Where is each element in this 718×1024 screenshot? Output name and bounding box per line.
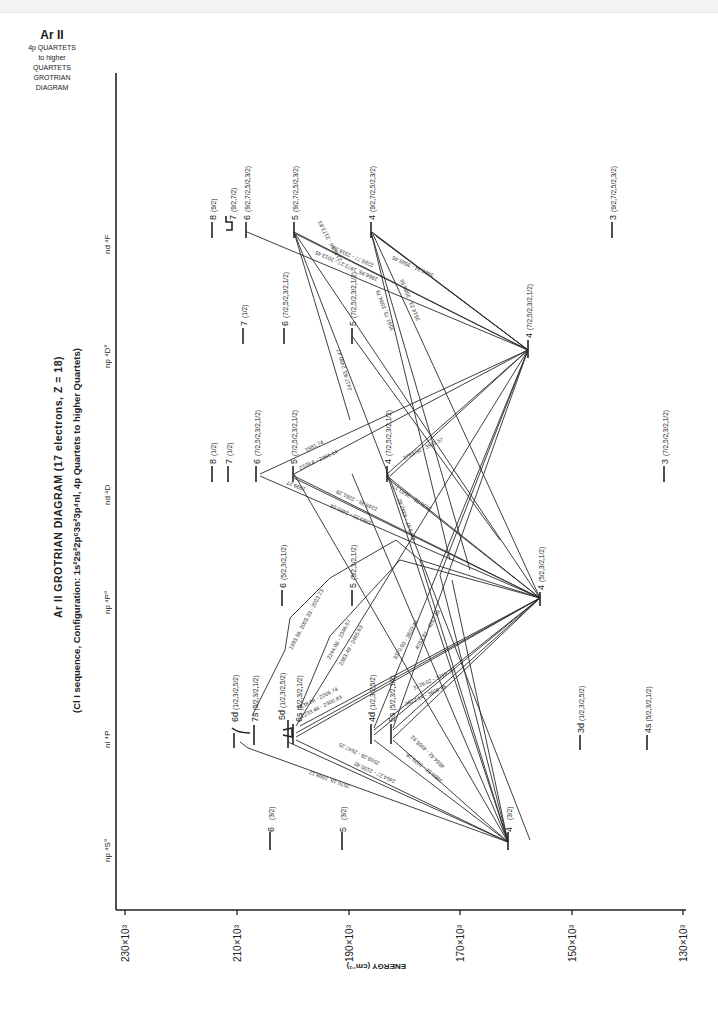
- svg-text:3562.73, 3594.79: 3562.73, 3594.79: [375, 289, 395, 331]
- diagram-title: Ar II GROTRIAN DIAGRAM (17 electrons, Z …: [52, 356, 64, 618]
- level-nl4P-5d: 5d(1/2,3/2,5/2): [277, 673, 287, 720]
- level-nd4D-4: 4(7/2,5/2,3/2,1/2): [383, 410, 393, 464]
- svg-text:2339.8 - 2381.14: 2339.8 - 2381.14: [298, 449, 338, 471]
- svg-text:1993.56, 2003.33 - 2022.73: 1993.56, 2003.33 - 2022.73: [288, 588, 325, 650]
- grotrian-diagram: Ar II GROTRIAN DIAGRAM (17 electrons, Z …: [0, 0, 718, 1024]
- level-np4D-7: 7(1/2): [239, 305, 249, 326]
- column-label-nd4F: nd ⁴F: [103, 234, 112, 254]
- level-nl4P-4d: 4d(1/2,3/2,5/2): [367, 675, 377, 722]
- level-np4S-6: 6: [266, 827, 276, 832]
- tick-label-130: 130×10³: [678, 924, 689, 962]
- level-nd4F-4: 4(9/2,7/2,5/2,3/2): [367, 166, 377, 220]
- level-nd4D-8: 8(1/2): [208, 443, 218, 464]
- column-label-np4D: np ⁴D°: [103, 344, 112, 368]
- level-np4P-6: 6(5/2,3/2,1/2): [278, 545, 288, 588]
- svg-text:3370.93 - 3603.46: 3370.93 - 3603.46: [392, 619, 420, 661]
- column-label-nl4P: nl ⁴P: [103, 731, 112, 748]
- svg-text:4379.67 - 4342.82: 4379.67 - 4342.82: [396, 498, 417, 542]
- level-labels: 4 (3/2) 5 (3/2) 6 (3/2) 6d(1/2,3/2,5/2) …: [208, 166, 670, 832]
- tick-label-150: 150×10³: [567, 924, 578, 962]
- svg-text:2076.18, 2098.12: 2076.18, 2098.12: [308, 769, 350, 789]
- level-nl4P-6d: 6d(1/2,3/2,5/2): [230, 675, 240, 722]
- tick-label-230: 230×10³: [120, 924, 131, 962]
- svg-text:(3/2): (3/2): [506, 807, 514, 820]
- svg-text:(3/2): (3/2): [268, 807, 276, 820]
- tick-label-190: 190×10³: [344, 924, 355, 962]
- energy-levels: [212, 216, 664, 850]
- svg-text:3622.14 - 3609.46: 3622.14 - 3609.46: [404, 683, 447, 707]
- svg-text:(3/2): (3/2): [340, 807, 348, 820]
- level-np4D-6: 6(7/2,5/2,3/2,1/2): [280, 272, 290, 326]
- column-label-np4S: np ⁴S°: [103, 839, 112, 862]
- level-nd4F-5: 5(9/2,7/2,5/2,3/2): [290, 166, 300, 220]
- level-nd4D-7: 7(1/2): [224, 443, 234, 464]
- level-nd4F-8: 8(9/2): [208, 199, 218, 220]
- diagram-subtitle: (Cl I sequence, Configuration: 1s²2s²2p⁶…: [71, 348, 82, 713]
- level-nl4P-4s: 4s(5/2,3/2,1/2): [643, 686, 653, 733]
- level-np4P-4: 4(5/2,3/2,1/2): [536, 547, 546, 590]
- level-np4S-5: 5: [338, 827, 348, 832]
- tick-label-170: 170×10³: [455, 924, 466, 962]
- energy-axis-label: ENERGY (cm⁻¹): [346, 962, 406, 971]
- svg-text:3763.50 - 3911.57: 3763.50 - 3911.57: [402, 436, 444, 461]
- level-nd4D-3: 3(7/2,5/2,3/2,1/2): [660, 410, 670, 464]
- level-np4D-4: 4(7/2,5/2,3/2,1/2): [524, 284, 534, 338]
- column-label-nd4D: nd ⁴D: [103, 484, 112, 505]
- level-nd4D-5: 5(7/2,5/2,3/2,1/2): [289, 410, 299, 464]
- level-nd4F-3: 3(9/2,7/2,5/2,3/2): [608, 166, 618, 220]
- tick-label-210: 210×10³: [232, 924, 243, 962]
- svg-text:3466.34 - 3588.45: 3466.34 - 3588.45: [391, 255, 434, 279]
- level-nd4D-6: 6(7/2,5/2,3/2,1/2): [252, 410, 262, 464]
- svg-text:2417.93, 2480.47: 2417.93, 2480.47: [335, 349, 353, 392]
- level-nd4F-7: 7(9/2,7/2): [228, 188, 238, 220]
- svg-text:1999.27: 1999.27: [286, 480, 307, 493]
- level-nd4F-6: 6(9/2,7/2,5/2,3/2): [242, 166, 252, 220]
- column-label-np4P: np ⁴P°: [103, 591, 112, 614]
- level-np4D-5: 5(7/2,5/2,3/2,1/2): [348, 272, 358, 326]
- level-nl4P-7s: 7s(5/2,3/2,1/2): [250, 675, 260, 722]
- level-nl4P-3d: 3d(1/2,3/2,5/2): [576, 686, 586, 733]
